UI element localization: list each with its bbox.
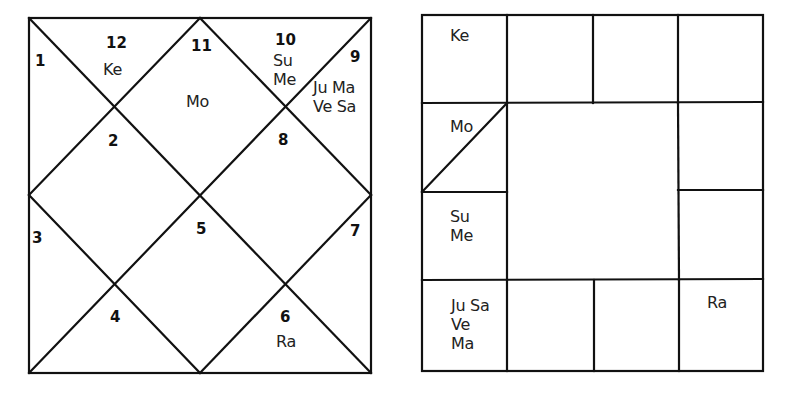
south-indian-chart: Ke Mo Su Me Ju Sa Ve Ma Ra bbox=[0, 0, 787, 395]
cell-r3c0-planets: Ju Sa Ve Ma bbox=[451, 296, 489, 353]
cell-r2c0-planets: Su Me bbox=[450, 207, 473, 245]
cell-r0c0-planets: Ke bbox=[450, 28, 469, 44]
cell-r1c0-planets: Mo bbox=[450, 119, 473, 135]
cell-r3c3-planets: Ra bbox=[707, 295, 727, 311]
